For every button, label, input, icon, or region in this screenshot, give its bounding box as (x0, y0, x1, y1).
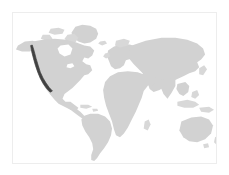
world-map-figure (0, 0, 229, 175)
map-frame (12, 12, 217, 164)
world-map-svg (13, 13, 216, 163)
